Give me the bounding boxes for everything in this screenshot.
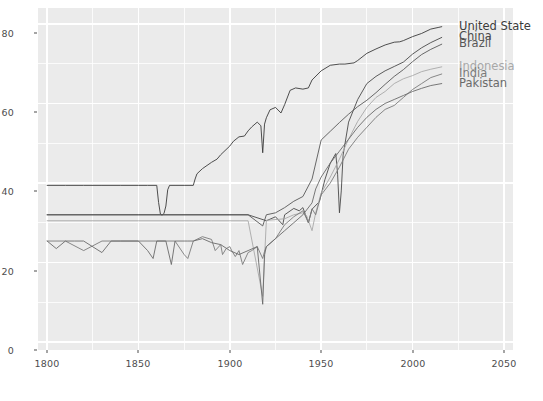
chart-figure: 80 60 40 20 0 1800 1850 1900 1950 2000 2…: [0, 0, 543, 401]
y-tick-mark-60: [34, 112, 37, 113]
y-tick-mark-40: [34, 191, 37, 192]
y-tick-label-0: 0: [8, 345, 14, 356]
x-tick-label-2050: 2050: [492, 358, 517, 369]
y-tick-label-40: 40: [2, 186, 15, 197]
x-tick-mark-1950: [321, 350, 322, 353]
x-tick-mark-1800: [47, 350, 48, 353]
series-line-india: [47, 74, 442, 264]
y-tick-label-80: 80: [2, 28, 15, 39]
y-tick-mark-80: [34, 33, 37, 34]
y-tick-mark-20: [34, 271, 37, 272]
series-line-united-states: [47, 27, 442, 216]
y-tick-mark-0: [34, 350, 37, 351]
x-tick-mark-2050: [504, 350, 505, 353]
x-tick-label-2000: 2000: [401, 358, 426, 369]
x-tick-mark-1900: [230, 350, 231, 353]
plot-panel: [38, 8, 513, 350]
series-line-indonesia: [47, 67, 442, 296]
series-lines: [38, 8, 513, 350]
x-tick-label-1900: 1900: [218, 358, 243, 369]
x-tick-label-1850: 1850: [126, 358, 151, 369]
x-tick-label-1800: 1800: [35, 358, 60, 369]
series-line-pakistan: [47, 84, 442, 305]
y-tick-label-20: 20: [2, 266, 15, 277]
x-tick-mark-1850: [138, 350, 139, 353]
x-tick-mark-2000: [413, 350, 414, 353]
x-tick-label-1950: 1950: [309, 358, 334, 369]
y-tick-label-60: 60: [2, 107, 15, 118]
series-line-brazil: [47, 44, 442, 226]
series-line-china: [47, 37, 442, 224]
